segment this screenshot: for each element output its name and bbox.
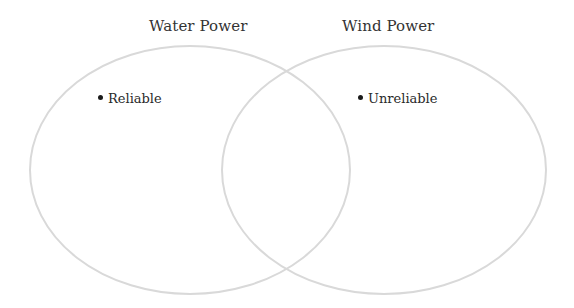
bullet-icon <box>358 95 363 100</box>
wind-power-circle <box>222 46 546 294</box>
water-power-item: Reliable <box>98 91 162 107</box>
bullet-icon <box>98 95 103 100</box>
item-label: Unreliable <box>368 91 437 106</box>
wind-power-item: Unreliable <box>358 91 437 107</box>
venn-diagram <box>0 0 574 308</box>
water-power-circle <box>30 46 350 294</box>
water-power-title: Water Power <box>149 17 247 35</box>
item-label: Reliable <box>108 91 162 106</box>
wind-power-title: Wind Power <box>342 17 434 35</box>
